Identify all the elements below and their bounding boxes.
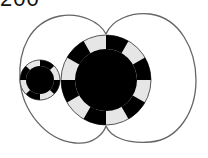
small-ring <box>20 60 60 100</box>
large-ring <box>61 35 151 125</box>
diagram-canvas <box>0 0 208 158</box>
